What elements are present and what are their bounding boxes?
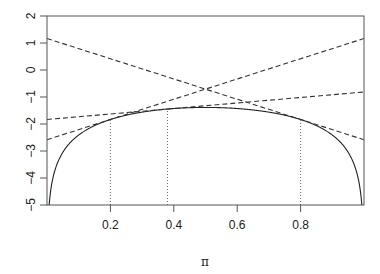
y-tick-label: −2 — [24, 117, 38, 131]
plot-frame — [47, 16, 364, 205]
x-tick-label: 0.2 — [102, 218, 119, 232]
x-axis: 0.20.40.60.8 — [102, 205, 309, 232]
x-tick-label: 0.8 — [292, 218, 309, 232]
x-axis-title: π — [201, 255, 209, 269]
y-tick-label: −1 — [24, 90, 38, 104]
plot-area — [47, 38, 364, 274]
log-likelihood-curve — [47, 107, 364, 274]
log-likelihood-chart: 0.20.40.60.8 210−1−2−3−4−5 π — [0, 0, 380, 274]
y-tick-label: 2 — [24, 12, 38, 19]
tangent-line-2 — [47, 92, 364, 120]
y-axis: 210−1−2−3−4−5 — [24, 12, 47, 212]
y-tick-label: −5 — [24, 198, 38, 212]
y-tick-label: 1 — [24, 39, 38, 46]
y-tick-label: 0 — [24, 66, 38, 73]
y-tick-label: −4 — [24, 171, 38, 185]
y-tick-label: −3 — [24, 144, 38, 158]
x-tick-label: 0.4 — [165, 218, 182, 232]
x-tick-label: 0.6 — [229, 218, 246, 232]
